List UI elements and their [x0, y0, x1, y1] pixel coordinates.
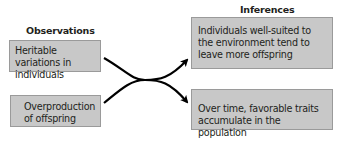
crossing-arrows [0, 0, 347, 143]
